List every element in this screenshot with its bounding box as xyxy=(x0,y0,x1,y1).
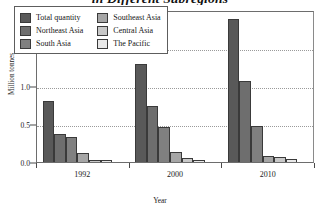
legend-swatch xyxy=(20,13,31,23)
y-axis-tick-label: 0.5 xyxy=(21,121,31,130)
legend-column-right: Southeast AsiaCentral AsiaThe Pacific xyxy=(97,11,160,50)
bar-group xyxy=(228,12,298,162)
bar xyxy=(89,160,101,162)
bar xyxy=(43,101,55,162)
legend-item: Total quantity xyxy=(20,11,83,24)
legend-item: Southeast Asia xyxy=(97,11,160,24)
bar xyxy=(274,157,286,162)
bar xyxy=(135,64,147,162)
x-axis-title: Year xyxy=(0,196,320,205)
legend-swatch xyxy=(97,13,108,23)
legend-swatch xyxy=(97,26,108,36)
legend-label: Total quantity xyxy=(36,14,81,22)
bar xyxy=(147,106,159,162)
y-axis-tick-label: 1.0 xyxy=(21,83,31,92)
legend-swatch xyxy=(20,39,31,49)
x-axis-tick-mark xyxy=(221,163,222,168)
legend-item: Northeast Asia xyxy=(20,24,83,37)
legend-item: South Asia xyxy=(20,37,83,50)
y-axis-tick-label: 0.0 xyxy=(21,159,31,168)
bar-chart: in Different Subregions Million tonnes 0… xyxy=(0,0,320,206)
legend-column-left: Total quantityNortheast AsiaSouth Asia xyxy=(20,11,83,50)
x-axis-tick-mark xyxy=(314,163,315,168)
chart-title: in Different Subregions xyxy=(0,0,320,5)
bar xyxy=(239,81,251,162)
legend-label: The Pacific xyxy=(113,40,150,48)
bar xyxy=(286,159,298,162)
x-axis-category-label: 2010 xyxy=(260,170,276,179)
bar xyxy=(101,160,113,162)
legend-item: Central Asia xyxy=(97,24,160,37)
bar xyxy=(66,137,78,162)
legend-label: Southeast Asia xyxy=(113,14,160,22)
chart-legend: Total quantityNortheast AsiaSouth Asia S… xyxy=(14,6,168,54)
bar xyxy=(251,126,263,162)
bar xyxy=(158,127,170,162)
legend-label: South Asia xyxy=(36,40,71,48)
legend-label: Central Asia xyxy=(113,27,153,35)
x-axis-tick-mark xyxy=(36,163,37,168)
x-axis-category-label: 2000 xyxy=(167,170,183,179)
bar xyxy=(170,152,182,162)
legend-label: Northeast Asia xyxy=(36,27,83,35)
bar xyxy=(263,156,275,162)
bar xyxy=(193,160,205,162)
legend-swatch xyxy=(20,26,31,36)
x-axis-category-label: 1992 xyxy=(74,170,90,179)
bar xyxy=(54,134,66,162)
bar xyxy=(182,158,194,162)
legend-item: The Pacific xyxy=(97,37,160,50)
bar xyxy=(228,19,240,162)
legend-swatch xyxy=(97,39,108,49)
x-axis-tick-mark xyxy=(129,163,130,168)
bar xyxy=(77,153,89,162)
